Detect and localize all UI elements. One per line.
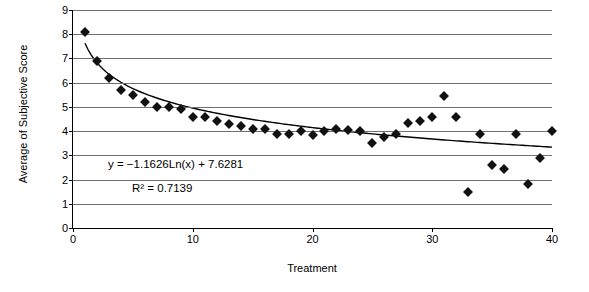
- y-tick-label: 6: [48, 77, 68, 89]
- y-tick-label: 2: [48, 174, 68, 186]
- y-tick-label: 1: [48, 198, 68, 210]
- plot-area: 0123456789010203040: [72, 10, 552, 229]
- gridline: [73, 10, 552, 11]
- y-tick-mark: [69, 10, 73, 11]
- y-tick-label: 7: [48, 52, 68, 64]
- y-tick-label: 3: [48, 149, 68, 161]
- y-tick-label: 4: [48, 125, 68, 137]
- gridline: [73, 83, 552, 84]
- x-tick-mark: [552, 228, 553, 232]
- x-tick-mark: [432, 228, 433, 232]
- trendline: [73, 10, 552, 228]
- x-tick-mark: [313, 228, 314, 232]
- x-tick-mark: [73, 228, 74, 232]
- y-tick-label: 0: [48, 222, 68, 234]
- y-tick-mark: [69, 155, 73, 156]
- x-tick-mark: [193, 228, 194, 232]
- y-tick-mark: [69, 204, 73, 205]
- equation-annotation: y = −1.1626Ln(x) + 7.6281: [108, 158, 243, 170]
- y-tick-mark: [69, 34, 73, 35]
- x-tick-label: 20: [306, 233, 318, 245]
- x-tick-label: 30: [426, 233, 438, 245]
- y-tick-mark: [69, 58, 73, 59]
- y-axis-title: Average of Subjective Score: [17, 19, 29, 209]
- gridline: [73, 58, 552, 59]
- gridline: [73, 204, 552, 205]
- x-tick-label: 10: [187, 233, 199, 245]
- gridline: [73, 180, 552, 181]
- r-squared-annotation: R² = 0.7139: [132, 182, 192, 194]
- y-tick-mark: [69, 131, 73, 132]
- x-axis-title: Treatment: [72, 262, 552, 274]
- y-tick-mark: [69, 107, 73, 108]
- y-tick-label: 5: [48, 101, 68, 113]
- y-tick-mark: [69, 83, 73, 84]
- gridline: [73, 34, 552, 35]
- y-tick-mark: [69, 180, 73, 181]
- y-tick-label: 9: [48, 4, 68, 16]
- gridline: [73, 155, 552, 156]
- chart-figure: Average of Subjective Score 012345678901…: [0, 0, 589, 292]
- y-axis-title-container: Average of Subjective Score: [0, 0, 28, 240]
- y-tick-label: 8: [48, 28, 68, 40]
- x-tick-label: 0: [70, 233, 76, 245]
- x-tick-label: 40: [546, 233, 558, 245]
